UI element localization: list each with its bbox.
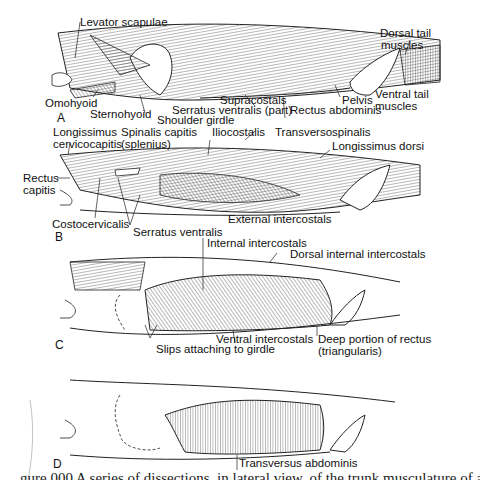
panel-label-d: D: [53, 457, 62, 471]
panel-d-drawing: [60, 380, 395, 459]
label-costocervicalis: Costocervicalis: [52, 218, 129, 230]
label-deep-portion-of-rectus-1: Deep portion of rectus: [318, 333, 431, 345]
label-longissimus-cervicocapitis-1: Longissimus: [53, 126, 117, 138]
figure-caption: gure 000 A series of dissections, in lat…: [20, 472, 480, 480]
panel-label-c: C: [55, 338, 64, 352]
label-dorsal-tail-muscles-1: Dorsal tail: [380, 27, 431, 39]
label-spinalis-capitis-2: (splenius): [121, 138, 171, 150]
panel-b-drawing: [60, 148, 420, 215]
panel-label-a: A: [57, 111, 65, 125]
label-dorsal-tail-muscles-2: muscles: [381, 39, 423, 51]
label-dorsal-internal-intercostals: Dorsal internal intercostals: [290, 248, 426, 260]
figure-caption-text: gure 000 A series of dissections, in lat…: [20, 472, 480, 480]
label-transversospinalis: Transversospinalis: [275, 126, 370, 138]
label-transversus-abdominis: Transversus abdominis: [239, 457, 357, 469]
panel-label-b: B: [55, 230, 63, 244]
label-ventral-tail-muscles-2: muscles: [375, 100, 417, 112]
label-longissimus-dorsi: Longissimus dorsi: [332, 140, 424, 152]
label-rectus-capitis-1: Rectus: [23, 172, 59, 184]
label-pelvis: Pelvis: [342, 94, 373, 106]
label-external-intercostals: External intercostals: [228, 213, 332, 225]
margin-arc: [28, 400, 33, 480]
label-spinalis-capitis-1: Spinalis capitis: [121, 126, 197, 138]
label-longissimus-cervicocapitis-2: cervicocapitis: [53, 138, 122, 150]
label-rectus-capitis-2: capitis: [23, 184, 56, 196]
label-ventral-tail-muscles-1: Ventral tail: [375, 88, 429, 100]
label-sternohyoid: Sternohyoid: [90, 108, 151, 120]
label-supracostals: Supracostals: [220, 94, 286, 106]
panel-c-drawing: [60, 257, 400, 334]
label-slips-attaching-to-girdle: Slips attaching to girdle: [156, 343, 275, 355]
label-levator-scapulae: Levator scapulae: [80, 16, 168, 28]
label-iliocostalis: Iliocostalis: [212, 126, 265, 138]
label-deep-portion-of-rectus-2: (triangularis): [318, 345, 382, 357]
